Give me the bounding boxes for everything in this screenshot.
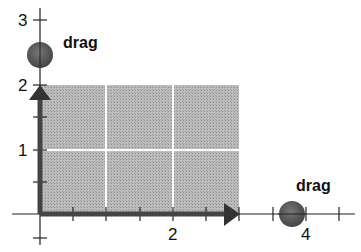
y-tick-label-3: 3: [18, 11, 27, 30]
x-tick-label-4: 4: [301, 225, 310, 244]
x-drag-label: drag: [296, 177, 331, 194]
x-tick-label-2: 2: [168, 225, 177, 244]
y-drag-label: drag: [63, 34, 98, 51]
y-tick-label-2: 2: [18, 76, 27, 95]
area-diagram: 2 4 1 2 3 drag drag: [0, 0, 361, 252]
y-tick-label-1: 1: [18, 141, 27, 160]
